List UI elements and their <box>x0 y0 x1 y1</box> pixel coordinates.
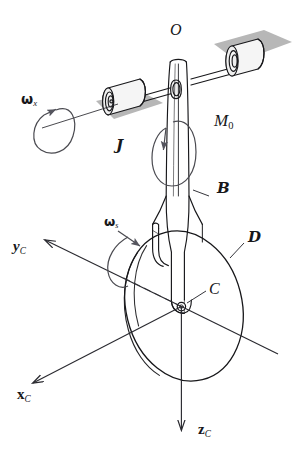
label-body-B: B <box>217 181 230 196</box>
label-origin-O: O <box>170 22 182 38</box>
label-moment-M0: M0 <box>214 112 233 131</box>
moment-arrow <box>163 128 166 150</box>
axes-layer <box>33 104 278 430</box>
label-axis-y: yC <box>13 239 26 256</box>
label-point-C: C <box>209 281 220 297</box>
label-axis-z: zC <box>198 422 211 439</box>
leader-C <box>187 291 206 303</box>
omega-s-arc <box>108 237 128 287</box>
figure-canvas: O M0 J B D C ωx ωs yC xC zC <box>0 0 298 459</box>
axis-x-line <box>33 307 181 383</box>
label-omega-s: ωs <box>104 215 118 230</box>
leader-D <box>230 243 244 258</box>
axis-x-back <box>181 307 278 354</box>
right-bearing-block <box>226 39 264 76</box>
bearing-axis-dashed <box>42 104 118 128</box>
label-omega-x: ωx <box>21 92 37 108</box>
label-axis-x: xC <box>17 387 31 404</box>
omega-x-arrow <box>44 109 56 115</box>
omega-x-arc <box>34 109 75 153</box>
label-disk-D: D <box>248 230 261 245</box>
left-bearing-block <box>103 79 146 115</box>
wheel-disk <box>109 218 258 394</box>
label-frame-J: J <box>116 138 123 153</box>
leader-B <box>193 190 209 196</box>
fork-hub-at-O <box>171 80 182 99</box>
omega-s-arrow <box>118 231 140 246</box>
